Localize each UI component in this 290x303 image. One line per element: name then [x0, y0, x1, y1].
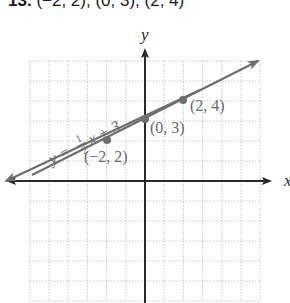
point-0-3	[141, 115, 149, 123]
equation-numerator: 1	[73, 131, 83, 144]
point-2-4	[179, 96, 187, 104]
coordinate-plane: y x (−2, 2) (0, 3) (2, 4) y = 1 2 x + 3	[0, 0, 290, 303]
equation-rhs: x + 3	[84, 117, 123, 148]
label-point-2-4: (2, 4)	[190, 97, 225, 115]
x-axis-label: x	[283, 171, 290, 190]
label-point-0-3: (0, 3)	[150, 119, 185, 137]
y-axis-label: y	[139, 25, 149, 44]
label-point-neg2-2: (−2, 2)	[84, 148, 128, 166]
equation-lhs: y =	[44, 143, 73, 170]
